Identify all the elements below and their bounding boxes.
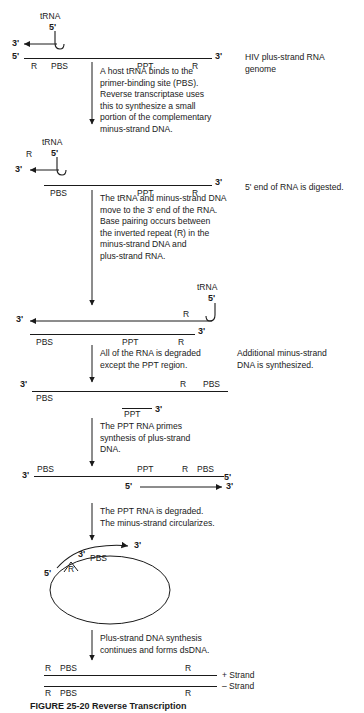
panel7-bottom-r-right: R xyxy=(185,689,191,698)
panel6-prime-5: 5' xyxy=(44,569,51,578)
panel7-bottom-r-left: R xyxy=(45,689,51,698)
panel3-left-prime: 3' xyxy=(16,315,23,324)
panel6-pbs-label: PBS xyxy=(90,554,107,563)
panel3-right-prime: 3' xyxy=(198,327,205,336)
panel5-left-prime: 3' xyxy=(22,471,29,480)
step4-description: The PPT RNA primes synthesis of plus-str… xyxy=(100,421,190,456)
panel2-side-annotation: 5' end of RNA is digested. xyxy=(245,182,344,194)
panel4-region-pbs-right: PBS xyxy=(203,380,220,389)
panel5-bottom-left-prime: 5' xyxy=(125,482,132,491)
figure-caption: FIGURE 25-20 Reverse Transcription xyxy=(30,701,187,711)
panel4-region-r: R xyxy=(180,380,186,389)
panel4-left-prime: 3' xyxy=(20,380,27,389)
panel2-left-prime: 3' xyxy=(15,165,22,174)
panel1-side-annotation: HIV plus-strand RNA genome xyxy=(245,52,325,75)
panel7-top-r-left: R xyxy=(45,664,51,673)
panel1-rna-strand xyxy=(24,58,212,59)
panel2-region-pbs: PBS xyxy=(50,189,67,198)
panel7-plus-strand-label: + Strand xyxy=(222,671,254,680)
step5-description: The PPT RNA is degraded. The minus-stran… xyxy=(100,506,215,529)
step2-description: The tRNA and minus-strand DNA move to th… xyxy=(100,193,227,263)
reverse-transcription-figure: 3' 5' tRNA 5' 3' R PBS PPT R HIV plus-st… xyxy=(0,0,364,713)
panel3-r-top: R xyxy=(183,310,189,319)
panel7-top-r-right: R xyxy=(185,664,191,673)
panel3-region-r: R xyxy=(178,338,184,347)
panel4-ppt-label: PPT xyxy=(124,410,141,419)
step1-description: A host tRNA binds to the primer-binding … xyxy=(100,66,211,136)
panel4-minus-strand xyxy=(32,391,228,392)
panel7-minus-strand-label: – Strand xyxy=(222,682,254,691)
panel1-trna-prime: 5' xyxy=(49,23,56,32)
step6-description: Plus-strand DNA synthesis continues and … xyxy=(100,633,209,656)
panel1-region-r-left: R xyxy=(31,62,37,71)
panel7-top-pbs: PBS xyxy=(60,664,77,673)
panel5-minus-strand xyxy=(34,476,224,477)
panel5-label-pbs-left: PBS xyxy=(37,465,54,474)
panel5-label-r: R xyxy=(182,465,188,474)
panel7-plus-strand-line xyxy=(44,675,217,676)
panel1-right-prime: 3' xyxy=(215,52,222,61)
panel3-rna-strand xyxy=(30,334,195,335)
panel6-prime-3-inner: 3' xyxy=(78,550,85,559)
panel5-label-pbs-right: PBS xyxy=(197,465,214,474)
panel1-left-prime-bottom: 5' xyxy=(12,52,19,61)
panel4-bottom-prime: 3' xyxy=(155,405,162,414)
step3-side-annotation: Additional minus-strand DNA is synthesiz… xyxy=(237,348,327,371)
panel5-bottom-right-prime: 3' xyxy=(226,482,233,491)
panel2-r-label: R xyxy=(26,150,32,159)
panel4-region-pbs-left: PBS xyxy=(36,394,53,403)
step3-description: All of the RNA is degraded except the PP… xyxy=(100,348,201,371)
panel1-trna-label: tRNA xyxy=(40,12,60,21)
panel6-r-label: R xyxy=(68,565,74,574)
panel7-bottom-pbs: PBS xyxy=(60,689,77,698)
panel2-right-prime: 3' xyxy=(215,178,222,187)
panel6-prime-3-tip: 3' xyxy=(134,541,141,550)
panel3-trna-prime: 5' xyxy=(208,294,215,303)
panel2-trna-label: tRNA xyxy=(42,138,62,147)
panel1-region-pbs: PBS xyxy=(51,62,68,71)
panel3-trna-label: tRNA xyxy=(197,283,217,292)
panel1-left-prime-top: 3' xyxy=(12,39,19,48)
panel2-trna-prime: 5' xyxy=(51,149,58,158)
panel3-region-ppt: PPT xyxy=(122,338,139,347)
panel3-region-pbs: PBS xyxy=(36,338,53,347)
panel5-label-ppt: PPT xyxy=(137,465,154,474)
panel2-rna-strand xyxy=(44,185,212,186)
